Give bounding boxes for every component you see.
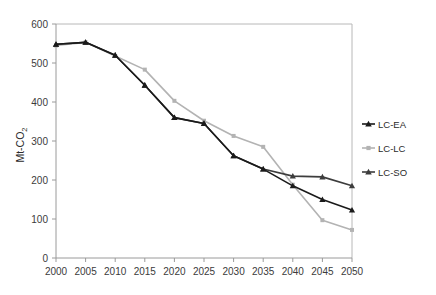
- y-tick-label: 200: [31, 175, 48, 186]
- legend-label: LC-EA: [378, 119, 407, 130]
- legend-label: LC-SO: [378, 167, 407, 178]
- x-tick-label: 2005: [74, 266, 97, 277]
- data-point-marker: [366, 146, 370, 150]
- y-tick-label: 300: [31, 136, 48, 147]
- y-tick-label: 400: [31, 97, 48, 108]
- x-tick-label: 2010: [104, 266, 127, 277]
- y-tick-label: 0: [42, 253, 48, 264]
- chart-canvas: 0100200300400500600 20002005201020152020…: [0, 0, 436, 295]
- x-tick-label: 2035: [252, 266, 275, 277]
- x-axis-tick-labels: 2000200520102015202020252030203520402045…: [45, 266, 364, 277]
- x-tick-label: 2040: [282, 266, 305, 277]
- data-point-marker: [320, 218, 324, 222]
- data-point-marker: [232, 134, 236, 138]
- legend-label: LC-LC: [378, 143, 406, 154]
- data-point-marker: [350, 228, 354, 232]
- x-tick-label: 2050: [341, 266, 364, 277]
- x-tick-label: 2030: [222, 266, 245, 277]
- y-tick-label: 100: [31, 214, 48, 225]
- y-tick-label: 600: [31, 19, 48, 30]
- y-tick-label: 500: [31, 58, 48, 69]
- x-tick-label: 2015: [134, 266, 157, 277]
- data-point-marker: [261, 145, 265, 149]
- x-tick-label: 2025: [193, 266, 216, 277]
- x-tick-label: 2020: [163, 266, 186, 277]
- emissions-line-chart: 0100200300400500600 20002005201020152020…: [0, 0, 436, 295]
- data-point-marker: [172, 99, 176, 103]
- x-tick-label: 2045: [311, 266, 334, 277]
- data-point-marker: [143, 68, 147, 72]
- x-tick-label: 2000: [45, 266, 68, 277]
